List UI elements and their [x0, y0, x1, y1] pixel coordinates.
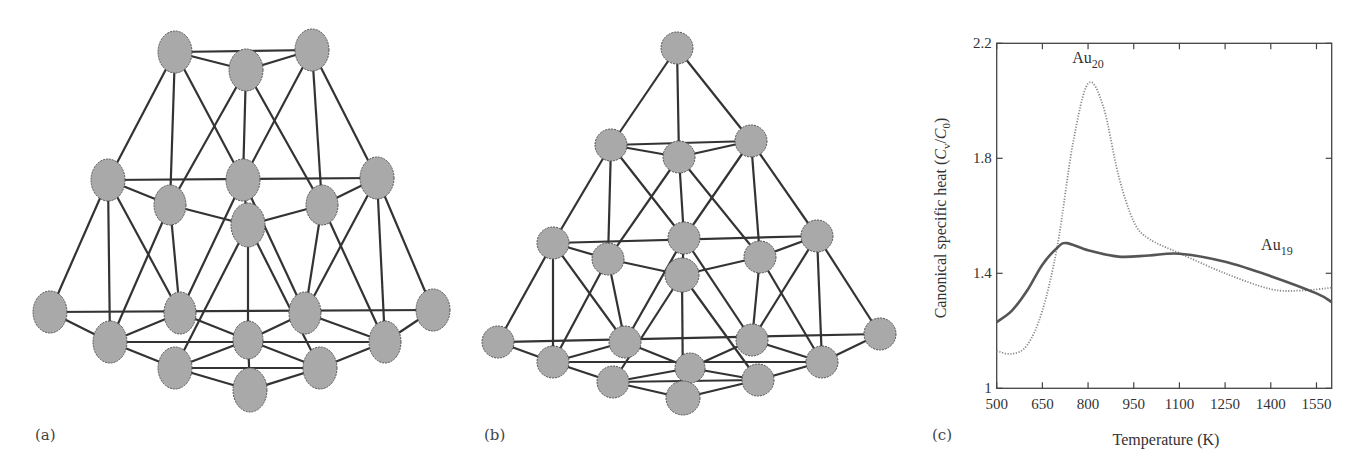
panel-label-a: (a) [35, 426, 56, 444]
x-tick-label: 1550 [1301, 396, 1331, 412]
au20-cluster-diagram [0, 0, 460, 476]
chart-annotations: Au20Au19 [1072, 49, 1292, 258]
panel-c-specific-heat-chart: 500650800950110012501400155011.41.82.2 A… [920, 0, 1368, 476]
y-tick-label: 2.2 [973, 35, 992, 51]
chart-axes: 500650800950110012501400155011.41.82.2 [973, 35, 1332, 412]
x-tick-label: 950 [1122, 396, 1145, 412]
au19-cluster-diagram [460, 0, 920, 476]
x-tick-label: 1250 [1210, 396, 1240, 412]
panel-a-au20-structure: (a) [0, 0, 460, 476]
series-annotation: Au20 [1072, 49, 1104, 71]
panel-b-au19-structure: (b) [460, 0, 920, 476]
y-tick-label: 1 [984, 380, 992, 396]
x-tick-label: 500 [985, 396, 1008, 412]
chart-series [997, 82, 1332, 354]
panel-label-b: (b) [484, 426, 505, 444]
x-tick-label: 1400 [1256, 396, 1286, 412]
plot-frame [997, 43, 1332, 388]
x-axis-label: Temperature (K) [1113, 431, 1220, 449]
y-tick-label: 1.4 [973, 265, 992, 281]
series-line-au20 [997, 82, 1332, 354]
x-tick-label: 800 [1077, 396, 1100, 412]
panel-label-c: (c) [932, 426, 952, 444]
x-tick-label: 1100 [1165, 396, 1194, 412]
series-annotation: Au19 [1261, 236, 1293, 258]
specific-heat-line-chart: 500650800950110012501400155011.41.82.2 A… [920, 0, 1368, 476]
x-tick-label: 650 [1031, 396, 1054, 412]
y-tick-label: 1.8 [973, 150, 992, 166]
y-axis-label: Canonical specific heat (Cv/C0) [932, 118, 952, 319]
